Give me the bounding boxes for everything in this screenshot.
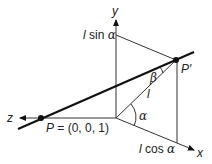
point-P-prime xyxy=(173,57,179,63)
beta-arc xyxy=(160,67,163,73)
l-cos-alpha-label: l cos α xyxy=(139,142,175,156)
point-P-prime-label: P′ xyxy=(181,62,192,76)
x-axis-label: x xyxy=(196,146,204,160)
l-length-label: l xyxy=(147,87,150,101)
projection-ray xyxy=(18,52,194,129)
alpha-arc xyxy=(131,104,136,126)
p-coords: = (0, 0, 1) xyxy=(54,121,109,135)
projection-diagram: y x z P = (0, 0, 1) P′ l sin α l cos α l… xyxy=(0,0,212,164)
alpha-angle-label: α xyxy=(139,109,147,123)
l-sin-alpha-label: l sin α xyxy=(83,28,116,42)
y-axis-label: y xyxy=(111,4,119,18)
point-P-label: P = (0, 0, 1) xyxy=(46,121,109,135)
point-P xyxy=(38,115,44,121)
p-label: P xyxy=(46,121,54,135)
z-axis-label: z xyxy=(6,111,13,125)
beta-angle-label: β xyxy=(149,71,157,85)
sin-projection-line xyxy=(116,35,176,60)
